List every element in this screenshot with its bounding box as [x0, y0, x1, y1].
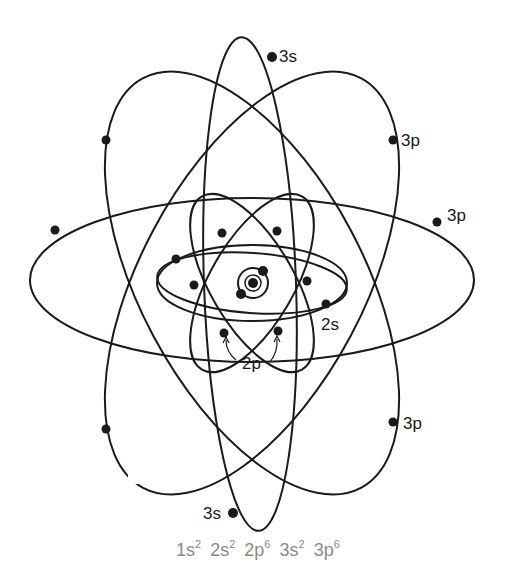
electron-1s [258, 266, 268, 276]
electron-1s [236, 289, 246, 299]
label-2p: 2p [242, 355, 261, 372]
electron-2p [218, 229, 227, 238]
config-term-3p: 3p6 [314, 538, 344, 561]
label-3p-lower-right: 3p [403, 415, 422, 432]
config-term-3s: 3s2 [279, 538, 308, 561]
nucleus [248, 278, 258, 288]
electron-3p [389, 136, 398, 145]
electron-2s [190, 281, 199, 290]
label-2s: 2s [321, 316, 339, 333]
config-term-1s: 1s2 [176, 538, 205, 561]
electron-configuration: 1s2 2s2 2p6 3s2 3p6 [176, 538, 344, 561]
electron-2p [274, 327, 283, 336]
electron-2p [220, 329, 229, 338]
electron-2s [322, 300, 331, 309]
atom-orbital-diagram [0, 0, 508, 588]
electron-3p [51, 226, 60, 235]
orbit-gap [128, 470, 142, 484]
electron-3p [102, 136, 111, 145]
electron-2p [273, 227, 282, 236]
electron-2p [172, 255, 181, 264]
label-3p-upper-right: 3p [401, 132, 420, 149]
config-term-2s: 2s2 [210, 538, 239, 561]
arrow-2p-left [226, 340, 236, 360]
electron-2p [303, 277, 312, 286]
label-3p-right: 3p [447, 207, 466, 224]
label-3s-top: 3s [279, 48, 297, 65]
electron-3p [433, 218, 442, 227]
config-term-2p: 2p6 [244, 538, 274, 561]
electron-3s [228, 508, 238, 518]
arrow-2p-right [270, 339, 277, 362]
electron-3p [102, 425, 111, 434]
electron-3p [389, 418, 398, 427]
label-3s-bottom: 3s [203, 505, 221, 522]
electron-3s [267, 52, 277, 62]
